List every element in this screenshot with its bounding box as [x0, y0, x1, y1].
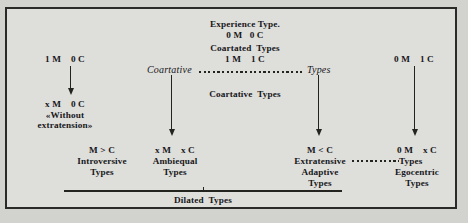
dilated-types-bracket-tick	[203, 187, 204, 190]
introversive-top-formula: 1 M 0 C	[45, 54, 85, 64]
introversive-mid-note-line1: «Without	[46, 110, 84, 120]
coartated-types-label: Coartated Types	[210, 43, 279, 53]
coartated-types-formula: 1 M 1 C	[225, 54, 265, 64]
introversive-bottom-formula: M > C	[89, 145, 115, 155]
coartative-axis-right-label: Types	[307, 65, 331, 75]
introversive-mid-note-line2: extratension»	[37, 120, 92, 130]
coartative-types-center-label: Coartative Types	[209, 89, 281, 99]
egocentric-bottom-formula: 0 M x C	[397, 145, 437, 155]
introversive-mid-formula: x M 0 C	[45, 99, 85, 109]
coartative-axis-left-label: Coartative	[147, 65, 192, 75]
dilated-types-label: Dilated Types	[174, 195, 232, 205]
introversive-arrow-head-icon	[68, 88, 74, 95]
extratensive-label-line3: Types	[308, 178, 332, 188]
diagram-plate: Experience Type. 0 M 0 C Coartated Types…	[5, 7, 457, 209]
ambiequal-arrow-head-icon	[169, 129, 175, 136]
introversive-label-line2: Types	[90, 167, 114, 177]
ambiequal-arrow-shaft	[171, 75, 172, 131]
ambiequal-label-line1: Ambiequal	[153, 156, 198, 166]
introversive-arrow-shaft	[70, 66, 71, 90]
egocentric-arrow-head-icon	[412, 129, 418, 136]
extratensive-label-line1: Extratensive	[294, 156, 345, 166]
extratensive-arrow-shaft	[318, 75, 319, 131]
egocentric-label-line1: Types	[399, 156, 423, 166]
coartative-axis-dotted-connector	[199, 71, 303, 73]
extratensive-arrow-head-icon	[316, 129, 322, 136]
diagram-root: Experience Type. 0 M 0 C Coartated Types…	[0, 0, 468, 223]
ambiequal-bottom-formula: x M x C	[155, 145, 195, 155]
egocentric-label-line3: Types	[405, 178, 429, 188]
egocentric-top-formula: 0 M 1 C	[394, 54, 434, 64]
extratensive-egocentric-dotted-connector	[352, 160, 399, 162]
dilated-types-bracket	[64, 190, 342, 192]
experience-type-label: Experience Type.	[210, 19, 280, 29]
experience-type-formula: 0 M 0 C	[226, 30, 263, 40]
introversive-label-line1: Introversive	[77, 156, 127, 166]
egocentric-arrow-shaft	[414, 66, 415, 131]
ambiequal-label-line2: Types	[163, 167, 187, 177]
egocentric-label-line2: Egocentric	[395, 167, 439, 177]
extratensive-label-line2: Adaptive	[302, 167, 339, 177]
extratensive-bottom-formula: M < C	[307, 145, 333, 155]
